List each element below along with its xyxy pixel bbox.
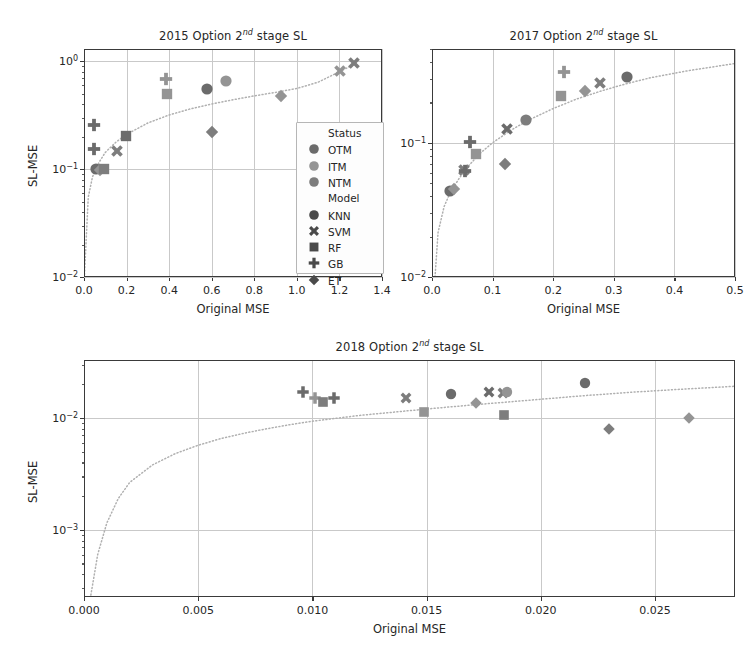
data-point-circle-ITM: [500, 385, 513, 398]
legend-item-status-NTM[interactable]: NTM: [304, 176, 351, 190]
y-tick-label: 10−3: [40, 522, 78, 537]
x-tick-mark: [84, 597, 85, 601]
legend-group-title-status: Status: [328, 127, 361, 139]
diamond-marker-icon: [304, 274, 324, 288]
legend-item-label: NTM: [328, 177, 351, 189]
legend-item-model-KNN[interactable]: KNN: [304, 209, 351, 223]
legend-item-label: GB: [328, 258, 343, 270]
legend-item-status-OTM[interactable]: OTM: [304, 143, 352, 157]
data-point-diamond-ITM: [683, 411, 696, 424]
legend-item-model-RF[interactable]: RF: [304, 241, 341, 255]
data-point-plus-OTM: [328, 391, 341, 404]
legend-group-title-model: Model: [328, 192, 360, 204]
legend-item-label: KNN: [328, 210, 351, 222]
x-tick-mark: [312, 597, 313, 601]
y-tick-label: 10−2: [40, 411, 78, 426]
x-tick-label: 0.010: [297, 604, 329, 617]
panel-title-year: 2018: [336, 340, 366, 354]
x-tick-mark: [198, 597, 199, 601]
x-tick-label: 0.000: [68, 604, 100, 617]
legend-item-model-GB[interactable]: GB: [304, 257, 343, 271]
legend-item-label: OTM: [328, 144, 352, 156]
x-tick-mark: [541, 597, 542, 601]
x-tick-label: 0.015: [411, 604, 443, 617]
panel-title-ordinal: nd: [419, 339, 429, 348]
x-tick-mark: [427, 597, 428, 601]
data-point-circle-OTM: [444, 387, 457, 400]
x-tick-label: 0.020: [525, 604, 557, 617]
panel-title-text: Option 2: [365, 340, 419, 354]
data-point-square-NTM: [498, 409, 511, 422]
x-marker-icon: [304, 225, 324, 239]
plus-marker-icon: [304, 257, 324, 271]
x-tick-mark: [655, 597, 656, 601]
legend-item-label: SVM: [328, 226, 351, 238]
data-point-diamond-NTM: [603, 423, 616, 436]
data-point-diamond-ITM: [469, 396, 482, 409]
panel-title: 2018 Option 2nd stage SL: [84, 339, 735, 354]
data-point-square-ITM: [418, 406, 431, 419]
x-tick-label: 0.005: [182, 604, 214, 617]
panel-title-tail: stage SL: [430, 340, 484, 354]
square-marker-icon: [304, 241, 324, 255]
circle-marker-icon: [304, 160, 324, 174]
chart-panel-2018: 2018 Option 2nd stage SL0.0000.0050.0100…: [0, 0, 756, 654]
y-axis-label: SL-MSE: [26, 460, 40, 502]
legend-item-model-SVM[interactable]: SVM: [304, 225, 351, 239]
data-point-x-OTM: [483, 386, 496, 399]
data-point-x-NTM: [400, 392, 413, 405]
circle-marker-icon: [304, 209, 324, 223]
x-tick-label: 0.025: [639, 604, 671, 617]
data-point-circle-OTM: [579, 377, 592, 390]
legend-item-status-ITM[interactable]: ITM: [304, 160, 347, 174]
circle-marker-icon: [304, 143, 324, 157]
legend-item-label: ITM: [328, 161, 347, 173]
legend-item-label: RF: [328, 242, 341, 254]
circle-marker-icon: [304, 176, 324, 190]
figure-root: 2015 Option 2nd stage SL0.00.20.40.60.81…: [0, 0, 756, 654]
legend-item-model-ET[interactable]: ET: [304, 274, 341, 288]
x-axis-label: Original MSE: [84, 622, 735, 636]
legend-item-label: ET: [328, 275, 341, 287]
